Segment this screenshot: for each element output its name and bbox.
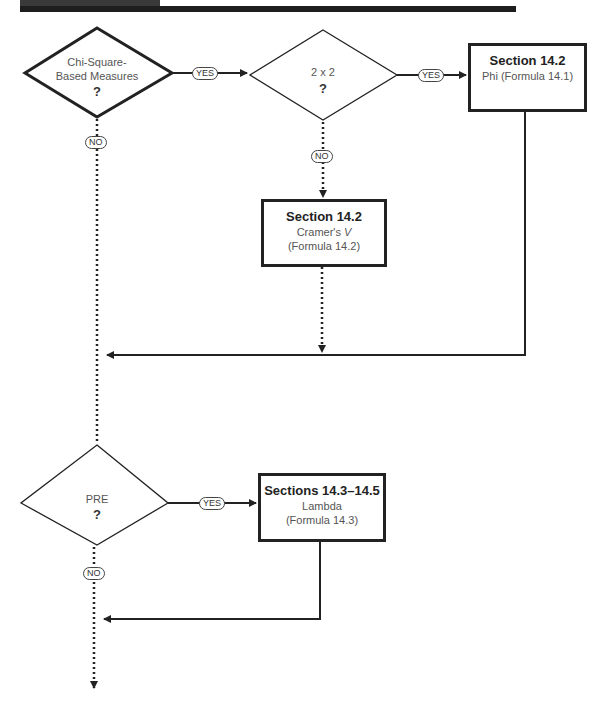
outcome-box-lambda: Sections 14.3–14.5 Lambda (Formula 14.3) bbox=[258, 473, 386, 542]
pre-yes-pill: YES bbox=[199, 497, 225, 510]
outcome-phi-title: Section 14.2 bbox=[471, 53, 584, 69]
decision-chi-line2: Based Measures bbox=[47, 69, 147, 83]
outcome-cramer-prefix: Cramer's bbox=[297, 226, 344, 238]
decision-chi-label: Chi-Square- Based Measures bbox=[47, 55, 147, 83]
outcome-cramer-formula: (Formula 14.2) bbox=[264, 239, 384, 253]
chi-yes-pill: YES bbox=[192, 67, 218, 80]
decision-2x2-question: ? bbox=[313, 81, 333, 96]
decision-2x2-label: 2 x 2 bbox=[293, 65, 353, 79]
outcome-lambda-title: Sections 14.3–14.5 bbox=[261, 483, 383, 499]
decision-pre-question: ? bbox=[87, 507, 107, 522]
decision-chi-line1: Chi-Square- bbox=[47, 55, 147, 69]
2x2-no-pill: NO bbox=[311, 150, 333, 163]
outcome-cramer-title: Section 14.2 bbox=[264, 209, 384, 225]
chi-no-pill: NO bbox=[85, 136, 107, 149]
outcome-cramer-name: Cramer's V bbox=[264, 225, 384, 239]
outcome-phi-formula: Phi (Formula 14.1) bbox=[471, 69, 584, 83]
outcome-lambda-formula: (Formula 14.3) bbox=[261, 513, 383, 527]
decision-pre-label: PRE bbox=[67, 492, 127, 506]
outcome-lambda-name: Lambda bbox=[261, 499, 383, 513]
decision-chi-question: ? bbox=[87, 84, 107, 99]
outcome-box-cramer: Section 14.2 Cramer's V (Formula 14.2) bbox=[261, 199, 387, 267]
2x2-yes-pill: YES bbox=[418, 69, 444, 82]
pre-no-pill: NO bbox=[83, 567, 105, 580]
outcome-box-phi: Section 14.2 Phi (Formula 14.1) bbox=[468, 43, 587, 112]
outcome-cramer-var: V bbox=[344, 226, 351, 238]
